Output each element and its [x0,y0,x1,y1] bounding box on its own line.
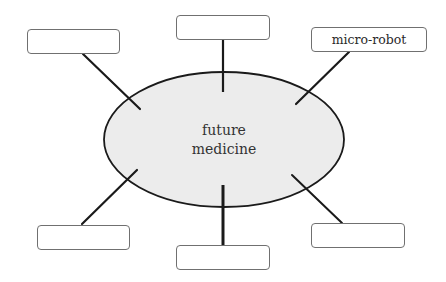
node-bottom-right[interactable] [311,223,405,248]
node-top-center[interactable] [176,15,270,40]
node-bottom-left[interactable] [37,225,130,250]
central-topic-line2: medicine [192,140,257,159]
central-topic: future medicine [104,72,344,207]
node-label: micro-robot [332,32,407,47]
node-bottom-center[interactable] [176,245,270,270]
node-top-left[interactable] [27,29,120,54]
mind-map-diagram: future medicine micro-robot [0,0,446,282]
central-topic-line1: future [202,121,246,140]
node-top-right[interactable]: micro-robot [311,27,427,52]
